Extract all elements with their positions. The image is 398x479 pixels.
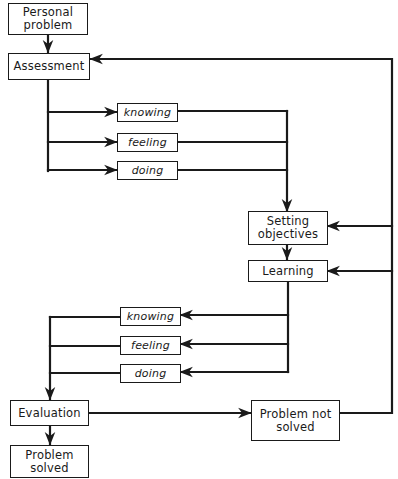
node-label: Setting objectives: [258, 215, 319, 241]
node-label: Problem not solved: [260, 408, 332, 434]
node-evaluation: Evaluation: [10, 400, 89, 426]
node-assessment: Assessment: [8, 53, 90, 80]
node-setting-objectives: Setting objectives: [248, 211, 328, 245]
node-personal-problem: Personal problem: [8, 3, 88, 35]
node-label: doing: [135, 367, 167, 380]
node-label: Assessment: [14, 60, 85, 73]
node-lower-doing: doing: [120, 364, 181, 383]
node-label: doing: [132, 164, 164, 177]
node-problem-not-solved: Problem not solved: [251, 400, 340, 441]
node-lower-knowing: knowing: [120, 307, 181, 326]
node-label: Problem solved: [25, 449, 73, 475]
node-label: Evaluation: [18, 407, 81, 420]
node-label: Learning: [262, 265, 314, 278]
node-learning: Learning: [248, 260, 328, 282]
node-label: knowing: [127, 310, 174, 323]
node-upper-doing: doing: [117, 161, 178, 180]
node-label: feeling: [128, 136, 167, 149]
node-upper-knowing: knowing: [117, 103, 178, 122]
node-label: knowing: [124, 106, 171, 119]
node-upper-feeling: feeling: [117, 133, 178, 152]
node-label: Personal problem: [23, 6, 74, 32]
node-lower-feeling: feeling: [120, 336, 181, 355]
node-problem-solved: Problem solved: [10, 445, 89, 478]
node-label: feeling: [131, 339, 170, 352]
